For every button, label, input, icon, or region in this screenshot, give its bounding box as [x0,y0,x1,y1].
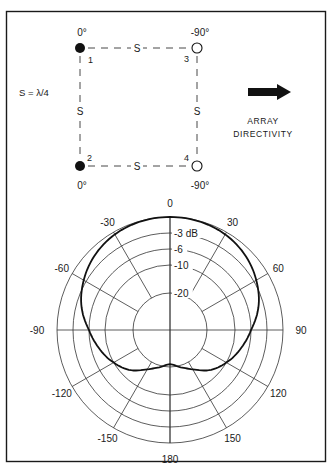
angle-label--150: -150 [97,433,117,444]
element-1-filled-icon [75,43,85,53]
angle-label--30: -30 [100,217,115,228]
angle-label-120: 120 [270,388,287,399]
element-2-filled-icon [75,161,85,171]
ring-label-10: -10 [174,260,189,271]
side-label-top: S [134,43,141,54]
array-diagram [80,48,197,166]
spoke--30 [114,232,152,298]
spoke-150 [189,362,227,428]
element-2-phase: 0° [77,180,87,191]
figure: S S S S 1 2 3 4 0° 0° -90° -90° S = λ/4 … [0,0,332,474]
element-4-open-icon [192,161,202,171]
directivity-label-line2: DIRECTIVITY [233,129,293,139]
element-1-phase: 0° [77,27,87,38]
element-4-number: 4 [184,153,189,163]
angle-label--60: -60 [55,263,70,274]
angle-label-90: 90 [295,325,307,336]
angle-label-30: 30 [227,217,239,228]
angle-label-150: 150 [224,433,241,444]
element-1-number: 1 [88,55,93,65]
ring-label-3: -3 dB [174,228,198,239]
side-label-bottom: S [134,161,141,172]
element-3-open-icon [192,43,202,53]
angle-label-180: 180 [162,454,179,465]
ring-label-20: -20 [174,288,189,299]
ring-label-6: -6 [174,244,183,255]
element-3-phase: -90° [191,27,209,38]
element-2-number: 2 [87,153,92,163]
element-4-phase: -90° [191,180,209,191]
spoke-30 [189,232,227,298]
side-label-left: S [77,106,84,117]
directivity-label-line1: ARRAY [247,116,279,126]
angle-label-60: 60 [273,263,285,274]
side-label-right: S [194,106,201,117]
angle-label-0: 0 [167,198,173,209]
directivity-arrow-icon [248,84,291,100]
spoke--150 [114,362,152,428]
polar-plot: 0306090120150180-150-120-90-60-30-3 dB-6… [30,198,307,465]
element-3-number: 3 [184,54,189,64]
angle-label--90: -90 [30,325,45,336]
angle-label--120: -120 [52,388,72,399]
spacing-note: S = λ/4 [19,87,49,98]
